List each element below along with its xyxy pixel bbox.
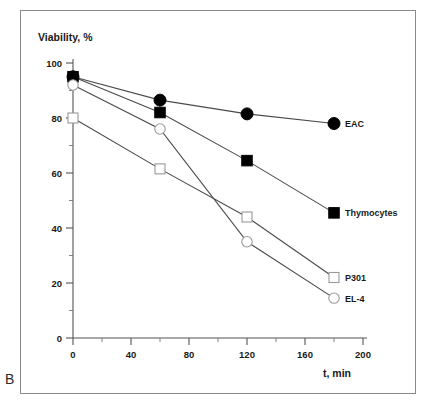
panel-letter: B xyxy=(5,371,15,387)
figure-panel-b: B 02040608010004080120160200 EACThymocyt… xyxy=(0,0,428,414)
figure-frame xyxy=(20,10,416,394)
